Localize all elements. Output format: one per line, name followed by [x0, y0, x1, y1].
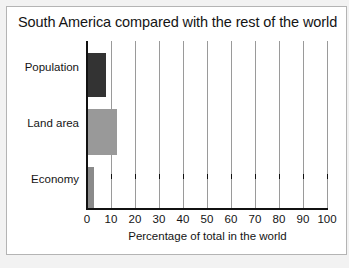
xtick-label-90: 90 — [297, 213, 310, 225]
xtick-label-70: 70 — [249, 213, 262, 225]
tick-80 — [279, 174, 280, 179]
xtick-label-30: 30 — [153, 213, 166, 225]
gridline-80 — [279, 41, 280, 208]
tick-30 — [159, 174, 160, 179]
xtick-label-50: 50 — [201, 213, 214, 225]
bar-land-area — [87, 109, 117, 155]
category-label-land-area: Land area — [27, 117, 79, 129]
y-axis-line — [86, 41, 88, 210]
xtick-label-10: 10 — [105, 213, 118, 225]
xtick-label-0: 0 — [84, 213, 90, 225]
gridline-90 — [303, 41, 304, 208]
gridline-30 — [159, 41, 160, 208]
tick-70 — [255, 174, 256, 179]
category-label-economy: Economy — [31, 173, 79, 185]
xtick-label-20: 20 — [129, 213, 142, 225]
tick-20 — [135, 174, 136, 179]
tick-100 — [327, 174, 328, 179]
tick-90 — [303, 174, 304, 179]
tick-60 — [231, 174, 232, 179]
x-axis-title: Percentage of total in the world — [87, 230, 328, 242]
x-axis-line — [87, 208, 328, 210]
xtick-label-100: 100 — [317, 213, 336, 225]
gridline-50 — [207, 41, 208, 208]
gridline-40 — [183, 41, 184, 208]
tick-10 — [111, 174, 112, 179]
gridline-60 — [231, 41, 232, 208]
category-axis-labels: Population Land area Economy — [7, 41, 79, 208]
tick-40 — [183, 174, 184, 179]
chart-title: South America compared with the rest of … — [18, 14, 337, 30]
xtick-label-40: 40 — [177, 213, 190, 225]
chart-frame: South America compared with the rest of … — [6, 6, 347, 255]
plot-area — [87, 41, 327, 208]
gridline-70 — [255, 41, 256, 208]
bar-population — [87, 53, 106, 97]
bar-economy — [87, 167, 94, 208]
tick-50 — [207, 174, 208, 179]
xtick-label-60: 60 — [225, 213, 238, 225]
category-label-population: Population — [25, 61, 79, 73]
tick-0 — [87, 174, 88, 179]
gridline-20 — [135, 41, 136, 208]
gridline-100 — [327, 41, 328, 208]
xtick-label-80: 80 — [273, 213, 286, 225]
